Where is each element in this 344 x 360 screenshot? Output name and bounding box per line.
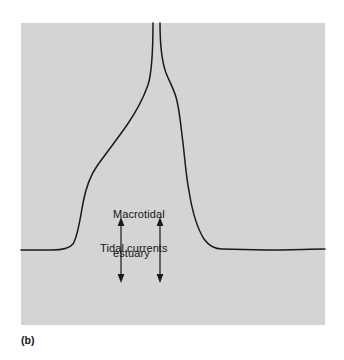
panel-caption: (b): [21, 334, 34, 346]
macrotidal-estuary-label: Macrotidal estuary: [113, 182, 165, 286]
right-shoreline-path: [160, 23, 325, 250]
macrotidal-estuary-label-line1: Macrotidal: [113, 208, 165, 221]
estuary-diagram: [0, 0, 344, 360]
tidal-currents-label: Tidal currents: [100, 242, 168, 255]
figure-root: Macrotidal estuary Tidal currents (b): [0, 0, 344, 360]
